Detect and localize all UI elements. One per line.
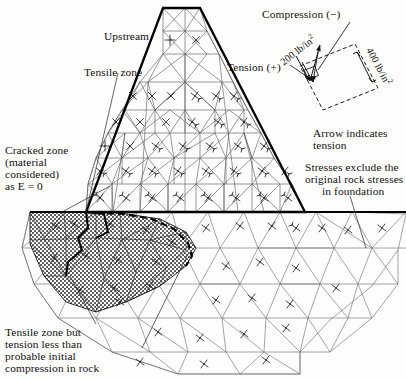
- label-compression: Compression (−): [262, 8, 340, 21]
- label-cracked-zone-equation: E = 0: [18, 180, 43, 192]
- label-cracked-zone-as: as: [5, 180, 18, 192]
- leader-compression: [318, 22, 350, 70]
- label-tension: Tension (+): [227, 61, 281, 74]
- leader-tension: [290, 65, 312, 80]
- label-tensile-zone: Tensile zone: [84, 66, 142, 79]
- leader-stresses-note: [350, 196, 366, 248]
- figure-canvas: Upstream Tensile zone Cracked zone (mate…: [0, 0, 406, 379]
- label-upstream: Upstream: [104, 30, 149, 43]
